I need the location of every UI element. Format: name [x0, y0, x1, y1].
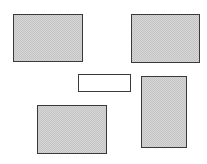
rectangle-bottom-left	[37, 105, 107, 154]
rectangle-center	[78, 74, 131, 92]
rectangle-top-left	[13, 14, 83, 62]
rectangle-right-tall	[141, 76, 187, 148]
rectangle-top-right	[131, 14, 200, 63]
